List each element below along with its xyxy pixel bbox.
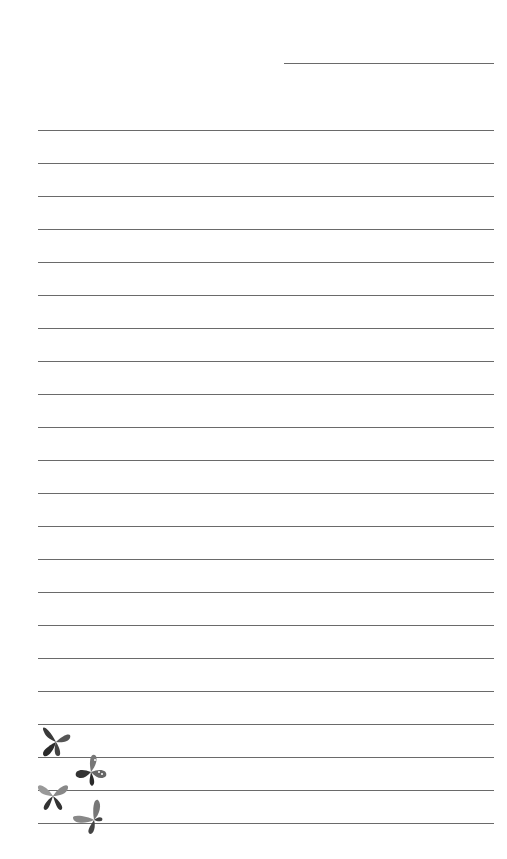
ruled-line [38,559,494,560]
date-line [284,63,494,64]
ruled-line [38,790,494,791]
ruled-line [38,229,494,230]
ruled-line [38,724,494,725]
ruled-line [38,262,494,263]
ruled-line [38,691,494,692]
ruled-line [38,625,494,626]
ruled-line [38,361,494,362]
ruled-line [38,328,494,329]
ruled-line [38,526,494,527]
ruled-line [38,130,494,131]
ruled-line [38,295,494,296]
butterfly-icon [38,722,74,760]
ruled-line [38,196,494,197]
butterfly-icon [70,798,110,838]
ruled-line [38,658,494,659]
ruled-line [38,592,494,593]
ruled-line [38,493,494,494]
ruled-line [38,394,494,395]
butterfly-icon [35,782,71,812]
ruled-line [38,460,494,461]
butterfly-icon [72,752,110,788]
stationery-page [0,0,507,859]
ruled-line [38,427,494,428]
ruled-line [38,163,494,164]
